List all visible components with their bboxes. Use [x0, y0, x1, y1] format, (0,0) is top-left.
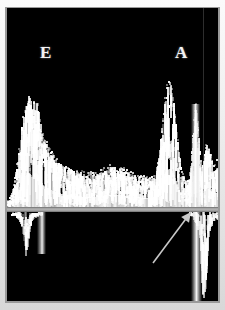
tissue-streak-left — [37, 212, 46, 254]
annulus-bright-band-lower — [191, 212, 202, 301]
spectral-speckle — [182, 173, 184, 175]
tissue-doppler-panel — [7, 212, 218, 301]
sweep-line — [203, 8, 204, 207]
spectral-speckle — [177, 139, 179, 141]
spectral-speckle — [39, 119, 41, 123]
spectral-speckle — [41, 168, 43, 171]
spectral-speckle — [174, 116, 176, 118]
annulus-bright-band-upper — [191, 104, 200, 207]
spectral-speckle — [172, 97, 174, 101]
a-wave-label: A — [175, 44, 187, 61]
spectral-speckle — [183, 177, 185, 179]
spectral-speckle — [56, 158, 58, 160]
spectral-doppler-panel — [7, 8, 218, 207]
doppler-figure: E A — [0, 0, 225, 310]
spectral-speckle — [214, 164, 216, 166]
spectral-speckle — [123, 167, 125, 169]
spectral-speckle — [40, 124, 42, 133]
spectral-speckle — [53, 155, 55, 158]
spectral-speckle — [171, 88, 173, 90]
spectral-speckle — [216, 159, 218, 161]
spectral-speckle — [177, 142, 179, 150]
spectral-envelope-base — [217, 192, 218, 207]
spectral-speckle — [42, 133, 44, 136]
spectral-speckle — [180, 167, 182, 169]
spectral-speckle — [176, 132, 178, 139]
spectral-speckle — [173, 103, 175, 107]
ultrasound-scan-area: E A — [7, 8, 218, 301]
spectral-speckle — [37, 103, 39, 107]
spectral-speckle — [49, 148, 51, 150]
tissue-speckle — [217, 215, 218, 221]
spectral-speckle — [166, 84, 168, 86]
spectral-speckle — [132, 172, 134, 174]
spectral-speckle — [210, 156, 212, 158]
spectral-speckle — [83, 171, 85, 173]
spectral-speckle — [103, 167, 105, 169]
e-wave-label: E — [40, 44, 51, 61]
